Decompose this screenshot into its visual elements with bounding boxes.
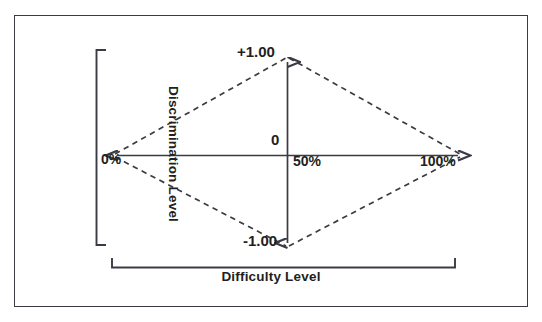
x-axis-mid-label: 50%	[293, 154, 321, 168]
edge-upper-left	[115, 58, 286, 154]
x-axis-bracket	[112, 258, 455, 268]
edge-lower-right	[289, 157, 460, 246]
x-axis-max-label: 100%	[420, 154, 456, 168]
x-axis-min-label: 0%	[101, 152, 121, 166]
y-axis-origin-label: 0	[271, 132, 279, 147]
figure-root: +1.00 -1.00 0 0% 50% 100% Difficulty Lev…	[0, 0, 542, 322]
edge-upper-right	[289, 58, 460, 154]
x-axis-title: Difficulty Level	[0, 270, 542, 284]
y-axis-max-label: +1.00	[237, 44, 275, 59]
y-axis-min-label: -1.00	[243, 233, 277, 248]
y-axis-bracket	[97, 50, 107, 245]
y-axis-title: Discrimination Level	[167, 86, 181, 216]
